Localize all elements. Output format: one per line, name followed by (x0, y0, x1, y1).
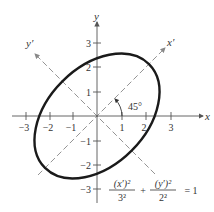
angle-label: 45° (128, 101, 142, 112)
svg-text:1: 1 (120, 122, 125, 133)
x-axis-label: x (204, 110, 210, 122)
y-axis-label: y (93, 10, 99, 22)
svg-text:−3: −3 (80, 184, 91, 195)
svg-text:2: 2 (142, 122, 147, 133)
svg-text:−1: −1 (80, 136, 91, 147)
svg-text:1: 1 (86, 87, 91, 98)
x-prime-label: x′ (166, 36, 175, 48)
svg-text:−2: −2 (43, 122, 54, 133)
angle-arc (115, 99, 122, 116)
svg-text:= 1: = 1 (184, 185, 197, 196)
svg-text:3: 3 (86, 38, 91, 49)
svg-text:3: 3 (169, 122, 174, 133)
ellipse-diagram: x y x′ y′ −3 −2 −1 1 2 3 3 2 1 −1 −2 −3 … (0, 0, 214, 212)
svg-text:−1: −1 (66, 122, 77, 133)
x-prime-axis (38, 48, 165, 175)
svg-text:+: + (140, 185, 146, 196)
svg-text:−2: −2 (80, 160, 91, 171)
svg-text:(y′)²: (y′)² (155, 178, 172, 190)
y-prime-label: y′ (25, 37, 34, 49)
svg-text:−3: −3 (19, 122, 30, 133)
svg-text:2: 2 (86, 62, 91, 73)
y-prime-axis (35, 54, 155, 174)
y-tick-labels: 3 2 1 −1 −2 −3 (80, 38, 91, 195)
ellipse-equation: (x′)² 3² + (y′)² 2² = 1 (109, 178, 198, 203)
svg-text:(x′)²: (x′)² (114, 178, 131, 190)
svg-text:3²: 3² (118, 192, 126, 203)
svg-text:2²: 2² (159, 192, 167, 203)
